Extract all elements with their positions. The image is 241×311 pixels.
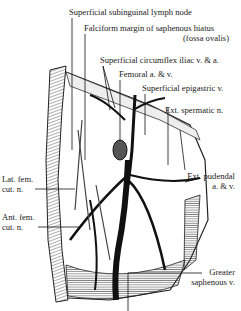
label-ant-fem-2: cut. n. <box>2 223 23 233</box>
lymph-node <box>113 140 127 160</box>
vessel-branch <box>128 180 165 270</box>
label-lymph-node: Superficial subinguinal lymph node <box>69 8 192 18</box>
label-ext-spermatic: Ext. spermatic n. <box>165 106 223 116</box>
skin-flap-left <box>46 66 68 302</box>
nerve-branch <box>180 130 185 170</box>
label-circumflex-iliac: Superficial circumflex iliac v. & a. <box>100 56 219 66</box>
label-greater-saphenous-2: saphenous v. <box>191 278 235 288</box>
label-lat-fem-2: cut. n. <box>2 185 23 195</box>
label-ext-pudendal-2: a. & v. <box>212 182 235 192</box>
nerve-branch <box>78 130 90 230</box>
label-femoral: Femoral a. & v. <box>119 70 173 80</box>
skin-flap-right <box>184 195 200 270</box>
label-superficial-epigastric: Superficial epigastric v. <box>142 84 223 94</box>
skin-flap-bottom <box>66 260 185 299</box>
anatomy-illustration <box>0 0 241 311</box>
label-fossa-ovalis: (fossa ovalis) <box>183 34 229 44</box>
